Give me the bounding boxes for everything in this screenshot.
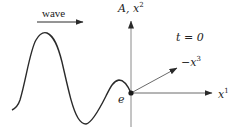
origin-point-label: e <box>118 94 125 105</box>
vertical-axis-label-sup: 2 <box>139 1 143 9</box>
horizontal-axis-label: x1 <box>218 88 229 100</box>
diagonal-axis-x3 <box>131 68 177 93</box>
diagonal-axis-label-main: −x <box>181 56 196 69</box>
origin-point <box>128 90 133 95</box>
diagonal-axis-label-sup: 3 <box>196 55 200 63</box>
vertical-axis-label-main: A, x <box>118 2 139 15</box>
diagonal-axis-label: −x3 <box>181 56 201 68</box>
time-label: t = 0 <box>176 32 204 43</box>
horizontal-axis-label-sup: 1 <box>224 87 228 95</box>
vertical-axis-label: A, x2 <box>118 2 144 14</box>
wave-diagram: wave A, x2 t = 0 −x3 x1 e <box>0 0 242 132</box>
wave-pulse-curve <box>12 33 131 124</box>
diagram-canvas <box>0 0 242 132</box>
wave-direction-label: wave <box>42 8 65 19</box>
